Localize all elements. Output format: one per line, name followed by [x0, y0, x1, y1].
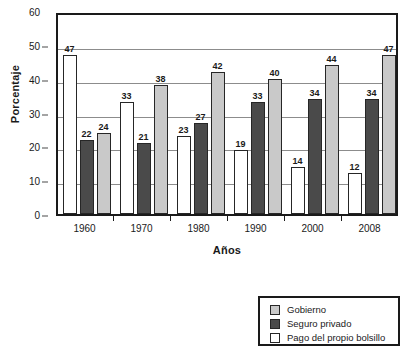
bar-value-label: 47: [383, 44, 393, 54]
bar-value-label: 42: [212, 61, 222, 71]
bar-seguro-1990[interactable]: 33: [251, 102, 265, 214]
bar-value-label: 12: [349, 162, 359, 172]
y-axis-title: Porcentaje: [9, 49, 21, 139]
bar-value-label: 21: [138, 132, 148, 142]
legend-swatch-gobierno-icon: [270, 305, 280, 315]
x-tick-mark-3: [227, 216, 228, 221]
bar-value-label: 27: [195, 112, 205, 122]
x-tick-label-2000: 2000: [301, 223, 323, 234]
bar-group-1980: 232742: [172, 15, 229, 214]
x-tick-label-2008: 2008: [358, 223, 380, 234]
legend-item-bolsillo[interactable]: Pago del propio bolsillo: [270, 331, 398, 344]
legend-label: Gobierno: [287, 304, 326, 315]
bar-value-label: 44: [326, 54, 336, 64]
y-tick-label-20: 20: [29, 143, 40, 153]
bar-bolsillo-1970[interactable]: 33: [120, 102, 134, 214]
y-tick-mark-50: [42, 46, 48, 47]
bar-value-label: 23: [178, 125, 188, 135]
x-axis-title: Años: [56, 244, 398, 256]
legend-swatch-bolsillo-icon: [270, 333, 280, 343]
y-tick-label-10: 10: [29, 177, 40, 187]
x-tick-mark-5: [341, 216, 342, 221]
y-tick-label-0: 0: [34, 211, 40, 221]
bar-group-1990: 193340: [229, 15, 286, 214]
bar-gobierno-2000[interactable]: 44: [325, 65, 339, 214]
y-tick-mark-40: [42, 80, 48, 81]
legend-label: Pago del propio bolsillo: [287, 332, 385, 343]
legend-item-gobierno[interactable]: Gobierno: [270, 303, 398, 316]
x-axis-ticks: 196019701980199020002008: [56, 216, 398, 238]
bar-seguro-1970[interactable]: 21: [137, 143, 151, 214]
y-tick-label-30: 30: [29, 110, 40, 120]
plot-area: 472224332138232742193340143444123447: [56, 13, 398, 216]
y-tick-mark-10: [42, 182, 48, 183]
bars-layer: 472224332138232742193340143444123447: [58, 15, 396, 214]
bar-value-label: 40: [269, 68, 279, 78]
bar-gobierno-1980[interactable]: 42: [211, 72, 225, 214]
bar-value-label: 33: [252, 91, 262, 101]
bar-group-1960: 472224: [58, 15, 115, 214]
chart-legend: GobiernoSeguro privadoPago del propio bo…: [258, 296, 400, 346]
bar-value-label: 24: [98, 122, 108, 132]
x-tick-label-1960: 1960: [73, 223, 95, 234]
bar-value-label: 19: [235, 139, 245, 149]
bar-value-label: 33: [121, 91, 131, 101]
x-tick-label-1980: 1980: [187, 223, 209, 234]
bar-seguro-2008[interactable]: 34: [365, 99, 379, 214]
bar-bolsillo-1960[interactable]: 47: [63, 55, 77, 214]
x-tick-mark-2: [170, 216, 171, 221]
bar-value-label: 34: [309, 88, 319, 98]
bar-gobierno-1960[interactable]: 24: [97, 133, 111, 214]
bar-gobierno-1990[interactable]: 40: [268, 79, 282, 214]
x-tick-label-1970: 1970: [130, 223, 152, 234]
legend-label: Seguro privado: [287, 318, 351, 329]
bar-group-2008: 123447: [343, 15, 400, 214]
bar-bolsillo-2008[interactable]: 12: [348, 173, 362, 214]
legend-swatch-seguro-icon: [270, 319, 280, 329]
bar-seguro-2000[interactable]: 34: [308, 99, 322, 214]
bar-value-label: 47: [64, 44, 74, 54]
y-tick-label-50: 50: [29, 42, 40, 52]
bar-value-label: 14: [292, 156, 302, 166]
bar-bolsillo-1990[interactable]: 19: [234, 150, 248, 214]
y-tick-mark-0: [42, 216, 48, 217]
y-tick-label-60: 60: [29, 8, 40, 18]
y-axis-ticks: 0102030405060: [22, 13, 48, 216]
bar-gobierno-1970[interactable]: 38: [154, 85, 168, 214]
x-tick-label-1990: 1990: [244, 223, 266, 234]
x-tick-mark-4: [284, 216, 285, 221]
bar-group-1970: 332138: [115, 15, 172, 214]
bar-bolsillo-1980[interactable]: 23: [177, 136, 191, 214]
bar-value-label: 22: [81, 129, 91, 139]
y-tick-mark-20: [42, 148, 48, 149]
bar-seguro-1980[interactable]: 27: [194, 123, 208, 214]
bar-bolsillo-2000[interactable]: 14: [291, 167, 305, 214]
y-tick-mark-30: [42, 114, 48, 115]
legend-item-seguro[interactable]: Seguro privado: [270, 317, 398, 330]
bar-value-label: 34: [366, 88, 376, 98]
bar-value-label: 38: [155, 74, 165, 84]
bar-seguro-1960[interactable]: 22: [80, 140, 94, 214]
y-tick-label-40: 40: [29, 76, 40, 86]
bar-group-2000: 143444: [286, 15, 343, 214]
x-tick-mark-1: [113, 216, 114, 221]
bar-gobierno-2008[interactable]: 47: [382, 55, 396, 214]
